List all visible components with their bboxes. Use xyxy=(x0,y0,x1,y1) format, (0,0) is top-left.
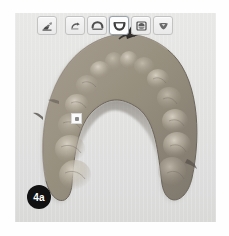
lower-arch-view-button[interactable] xyxy=(109,16,129,35)
measurement-marker[interactable] xyxy=(71,113,82,124)
occlusion-view-button[interactable] xyxy=(131,16,151,35)
toolbar-group-views xyxy=(65,16,173,35)
bite-down-view-button[interactable] xyxy=(153,16,173,35)
upper-arch-icon xyxy=(91,20,104,32)
figure-label-badge: 4a xyxy=(27,185,51,209)
lower-arch-icon xyxy=(113,20,126,32)
toolbar-group-select xyxy=(37,16,57,35)
viewer-page: 4a xyxy=(0,0,229,236)
scan-viewer-canvas[interactable]: 4a xyxy=(15,13,216,222)
viewer-toolbar xyxy=(15,14,216,40)
bite-chevron-down-icon xyxy=(157,20,170,32)
edge-artifact-left xyxy=(33,113,43,120)
cursor-model-icon xyxy=(41,20,54,32)
marker-dot-icon xyxy=(75,117,79,121)
upper-arch-view-button[interactable] xyxy=(87,16,107,35)
rotate-arrow-icon xyxy=(69,20,82,32)
model-select-tool-button[interactable] xyxy=(37,16,57,35)
rotate-view-tool-button[interactable] xyxy=(65,16,85,35)
occlusion-icon xyxy=(135,20,148,32)
